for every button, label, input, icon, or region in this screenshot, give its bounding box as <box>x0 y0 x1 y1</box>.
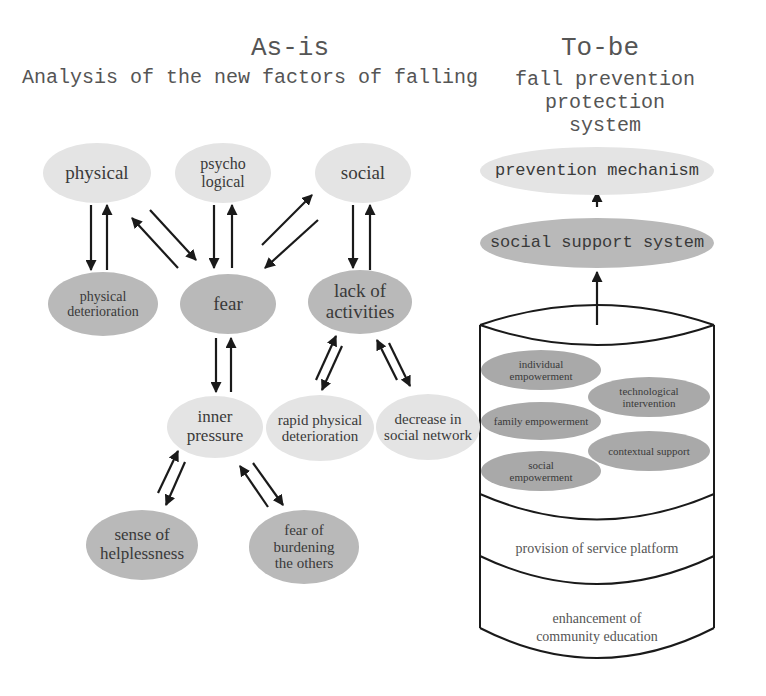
node-family-empowerment-label: family empowerment <box>494 415 588 427</box>
node-lack-of-activities: lack of activities <box>308 270 412 334</box>
arrow-physical-to-fear <box>150 210 196 260</box>
node-technological-intervention-label: technological intervention <box>619 385 678 409</box>
node-social: social <box>315 143 411 203</box>
node-inner-pressure-label: inner pressure <box>187 408 244 445</box>
node-decrease-in-social-network-label: decrease in social network <box>384 411 472 444</box>
node-technological-intervention: technological intervention <box>588 377 710 417</box>
arrow-rapid-to-lack <box>316 336 336 380</box>
node-contextual-support-label: contextual support <box>608 445 690 457</box>
node-family-empowerment: family empowerment <box>481 402 601 440</box>
node-sense-of-helplessness-label: sense of helplessness <box>100 526 184 563</box>
arrow-inner-to-burden <box>253 463 283 505</box>
arrow-fear-to-social <box>262 195 312 245</box>
node-prevention-mechanism: prevention mechanism <box>480 147 714 195</box>
arrow-lack-to-rapid <box>322 346 342 390</box>
node-sense-of-helplessness: sense of helplessness <box>86 510 198 580</box>
node-fear: fear <box>180 274 276 334</box>
arrow-decrease-to-lack <box>377 340 397 380</box>
layer-community-education: enhancement of community education <box>482 610 712 645</box>
node-rapid-physical-deterioration-label: rapid physical deterioration <box>278 412 363 445</box>
node-contextual-support: contextual support <box>588 431 710 471</box>
arrow-burden-to-inner <box>240 466 268 507</box>
as-is-subtitle: Analysis of the new factors of falling <box>20 66 480 89</box>
node-individual-empowerment-label: individual empowerment <box>510 358 573 382</box>
node-inner-pressure: inner pressure <box>167 396 263 458</box>
node-rapid-physical-deterioration: rapid physical deterioration <box>266 395 374 461</box>
node-fear-label: fear <box>213 294 243 315</box>
arrow-fear-to-physical <box>132 218 178 268</box>
node-social-support-system-label: social support system <box>490 234 704 253</box>
as-is-title: As-is <box>160 34 420 64</box>
arrow-lack-to-decrease <box>389 343 410 386</box>
node-fear-of-burdening: fear of burdening the others <box>249 510 359 584</box>
node-physical-deterioration: physical deterioration <box>48 272 158 336</box>
node-lack-of-activities-label: lack of activities <box>326 281 395 323</box>
node-physical: physical <box>43 143 151 203</box>
node-fear-of-burdening-label: fear of burdening the others <box>274 522 335 572</box>
node-decrease-in-social-network: decrease in social network <box>376 394 480 460</box>
node-social-support-system: social support system <box>480 218 714 268</box>
node-social-empowerment: social empowerment <box>481 451 601 491</box>
node-social-empowerment-label: social empowerment <box>510 459 573 483</box>
to-be-subtitle: fall prevention protection system <box>460 68 750 137</box>
node-psychological: psycho logical <box>175 143 271 203</box>
node-physical-label: physical <box>65 163 128 184</box>
cylinder-divider-1 <box>480 494 714 520</box>
node-psychological-label: psycho logical <box>200 155 245 190</box>
cylinder-top-front <box>480 325 714 345</box>
arrow-social-to-fear <box>265 220 318 268</box>
node-physical-deterioration-label: physical deterioration <box>67 289 139 320</box>
node-individual-empowerment: individual empowerment <box>481 350 601 390</box>
cylinder-divider-2 <box>480 556 714 584</box>
layer-service-platform: provision of service platform <box>482 540 712 558</box>
node-social-label: social <box>341 163 385 184</box>
node-prevention-mechanism-label: prevention mechanism <box>495 162 699 181</box>
to-be-title: To-be <box>500 34 700 64</box>
